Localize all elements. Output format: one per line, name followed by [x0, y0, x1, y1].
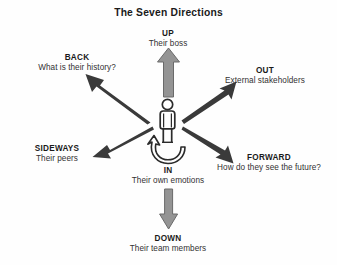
label-up-title: UP [105, 29, 231, 39]
label-in-title: IN [106, 166, 230, 176]
label-up-description: Their boss [105, 39, 231, 49]
label-up: UP Their boss [105, 29, 231, 48]
label-out-description: External stakeholders [196, 76, 334, 86]
label-sideways: SIDEWAYS Their peers [4, 144, 110, 163]
arrow-up [158, 48, 180, 97]
label-sideways-title: SIDEWAYS [4, 144, 110, 154]
label-back: BACK What is their history? [2, 53, 152, 72]
label-out-title: OUT [196, 66, 334, 76]
label-out: OUT External stakeholders [196, 66, 334, 85]
label-down: DOWN Their team members [106, 234, 230, 253]
person-figure-icon [160, 99, 175, 142]
arrow-back [86, 74, 151, 125]
label-back-description: What is their history? [2, 63, 152, 73]
label-sideways-description: Their peers [4, 154, 110, 164]
label-in: IN Their own emotions [106, 166, 230, 185]
label-forward-title: FORWARD [201, 153, 337, 163]
diagram-canvas: The Seven Directions [0, 0, 337, 265]
label-back-title: BACK [2, 53, 152, 63]
label-in-description: Their own emotions [106, 176, 230, 186]
arrow-in-curved [148, 136, 185, 164]
label-down-title: DOWN [106, 234, 230, 244]
arrow-down [160, 189, 178, 229]
label-down-description: Their team members [106, 244, 230, 254]
arrow-out [182, 82, 237, 125]
